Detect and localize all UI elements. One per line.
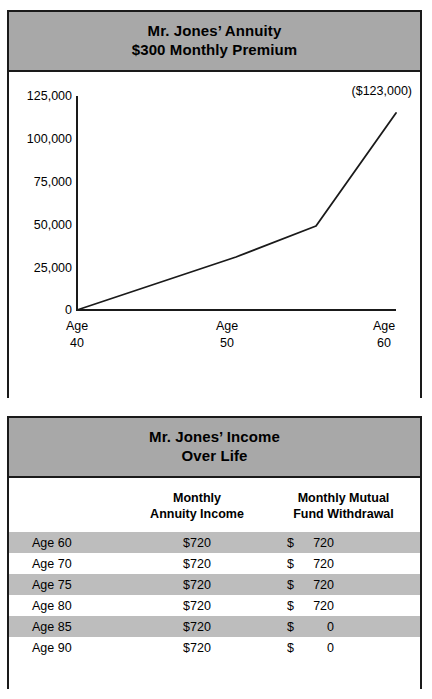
income-table-header: Mr. Jones’ Income Over Life	[9, 418, 420, 478]
cell-annuity-income: $720	[127, 578, 267, 592]
cell-mutual-fund-withdrawal: $720	[267, 578, 420, 592]
x-tick-age-number-60: 60	[344, 335, 424, 352]
cell-age: Age 60	[9, 536, 127, 550]
table-row: Age 80$720$720	[9, 595, 420, 616]
currency-amount: 0	[296, 641, 334, 655]
column-header-annuity-line-1: Monthly	[127, 490, 267, 506]
annuity-header-line-2: $300 Monthly Premium	[13, 40, 416, 59]
table-row: Age 75$720$720	[9, 574, 420, 595]
currency-amount: 720	[296, 557, 334, 571]
cell-annuity-income: $720	[127, 536, 267, 550]
x-tick-age-word-40: Age	[37, 318, 117, 335]
currency-symbol: $	[287, 599, 296, 613]
x-tick-age-number-50: 50	[187, 335, 267, 352]
cell-age: Age 90	[9, 641, 127, 655]
x-tick-age-word-60: Age	[344, 318, 424, 335]
cell-annuity-income: $720	[127, 620, 267, 634]
annuity-chart-panel: Mr. Jones’ Annuity $300 Monthly Premium …	[7, 10, 422, 398]
currency-amount: 720	[296, 536, 334, 550]
currency-amount: 720	[296, 599, 334, 613]
x-tick-label-age-40: Age 40	[37, 318, 117, 352]
document-page: Mr. Jones’ Annuity $300 Monthly Premium …	[0, 0, 432, 699]
x-tick-label-age-50: Age 50	[187, 318, 267, 352]
annuity-chart-plot-area: 125,000 100,000 75,000 50,000 25,000 0 (…	[9, 72, 420, 398]
cell-age: Age 85	[9, 620, 127, 634]
income-header-line-2: Over Life	[13, 446, 416, 465]
currency-amount: 720	[296, 578, 334, 592]
currency-symbol: $	[287, 557, 296, 571]
end-value-annotation: ($123,000)	[352, 84, 412, 98]
table-bottom-spacer	[9, 658, 420, 694]
x-tick-label-age-60: Age 60	[344, 318, 424, 352]
cell-annuity-income: $720	[127, 557, 267, 571]
table-row: Age 85$720$0	[9, 616, 420, 637]
cell-age: Age 70	[9, 557, 127, 571]
table-column-headers: Monthly Annuity Income Monthly Mutual Fu…	[9, 478, 420, 532]
currency-amount: 0	[296, 620, 334, 634]
column-header-mutual-fund-withdrawal: Monthly Mutual Fund Withdrawal	[267, 490, 420, 522]
column-header-fund-line-2: Fund Withdrawal	[267, 506, 420, 522]
annuity-header-line-1: Mr. Jones’ Annuity	[13, 21, 416, 40]
cell-annuity-income: $720	[127, 641, 267, 655]
column-header-fund-line-1: Monthly Mutual	[267, 490, 420, 506]
column-header-annuity-income: Monthly Annuity Income	[127, 490, 267, 522]
cell-mutual-fund-withdrawal: $720	[267, 557, 420, 571]
cell-mutual-fund-withdrawal: $720	[267, 599, 420, 613]
cell-mutual-fund-withdrawal: $0	[267, 641, 420, 655]
table-row: Age 60$720$720	[9, 532, 420, 553]
column-header-age	[9, 490, 127, 522]
income-header-line-1: Mr. Jones’ Income	[13, 427, 416, 446]
cell-age: Age 75	[9, 578, 127, 592]
table-row: Age 90$720$0	[9, 637, 420, 658]
currency-symbol: $	[287, 578, 296, 592]
income-table-panel: Mr. Jones’ Income Over Life Monthly Annu…	[7, 416, 422, 689]
x-tick-age-number-40: 40	[37, 335, 117, 352]
cell-mutual-fund-withdrawal: $720	[267, 536, 420, 550]
currency-symbol: $	[287, 536, 296, 550]
currency-symbol: $	[287, 641, 296, 655]
cell-mutual-fund-withdrawal: $0	[267, 620, 420, 634]
table-row: Age 70$720$720	[9, 553, 420, 574]
column-header-annuity-line-2: Annuity Income	[127, 506, 267, 522]
currency-symbol: $	[287, 620, 296, 634]
x-tick-age-word-50: Age	[187, 318, 267, 335]
annuity-chart-header: Mr. Jones’ Annuity $300 Monthly Premium	[9, 12, 420, 72]
cell-age: Age 80	[9, 599, 127, 613]
cell-annuity-income: $720	[127, 599, 267, 613]
income-table-body: Age 60$720$720Age 70$720$720Age 75$720$7…	[9, 532, 420, 658]
